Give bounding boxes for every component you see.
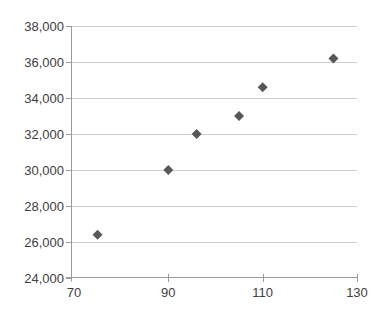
y-axis-tick-label: 34,000: [24, 91, 64, 106]
chart-container: 24,00026,00028,00030,00032,00034,00036,0…: [0, 0, 388, 318]
scatter-plot: 24,00026,00028,00030,00032,00034,00036,0…: [0, 0, 388, 318]
data-point-marker: [258, 82, 268, 92]
y-axis-tick-label: 36,000: [24, 55, 64, 70]
x-axis-tick-label: 70: [67, 285, 81, 300]
x-axis-tick-label: 110: [252, 285, 273, 300]
data-point-marker: [328, 53, 338, 63]
x-axis-tick-label: 90: [161, 285, 175, 300]
data-point-marker: [192, 129, 202, 139]
data-point-marker: [93, 230, 103, 240]
y-axis-tick-label: 28,000: [24, 199, 64, 214]
y-axis-tick-label: 30,000: [24, 163, 64, 178]
y-axis-tick-label: 24,000: [24, 271, 64, 286]
y-axis-tick-label: 26,000: [24, 235, 64, 250]
y-axis-tick-label: 38,000: [24, 19, 64, 34]
data-point-marker: [163, 165, 173, 175]
x-axis-tick-label: 130: [346, 285, 368, 300]
data-point-marker: [234, 111, 244, 121]
y-axis-tick-label: 32,000: [24, 127, 64, 142]
